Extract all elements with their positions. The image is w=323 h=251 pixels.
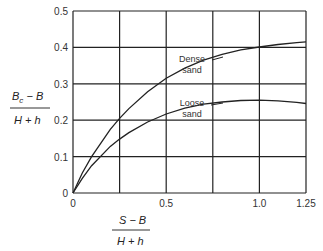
y-tick-label: 0 [62,188,68,199]
x-axis-ticks: 00.51.01.25 [70,198,316,209]
svg-text:H + h: H + h [14,114,41,126]
x-tick-label: 0.5 [159,198,173,209]
y-tick-label: 0.1 [54,152,68,163]
series-label: Dense [179,54,205,64]
x-tick-label: 1.25 [296,198,316,209]
chart: 00.10.20.30.40.5 00.51.01.25 DensesandLo… [0,0,323,251]
series-label: sand [182,109,202,119]
y-tick-label: 0.5 [54,6,68,17]
x-tick-label: 0 [70,198,76,209]
series-label: Loose [180,98,205,108]
series-label: sand [182,65,202,75]
y-tick-label: 0.4 [54,42,68,53]
y-tick-label: 0.2 [54,115,68,126]
x-tick-label: 1.0 [252,198,266,209]
series-annotations: DensesandLoosesand [179,54,223,119]
y-axis-ticks: 00.10.20.30.40.5 [54,6,68,199]
svg-text:H + h: H + h [117,235,144,247]
y-tick-label: 0.3 [54,79,68,90]
x-axis-label: S − B H + h [112,214,150,247]
svg-text:Bc − B: Bc − B [12,90,43,105]
y-axis-label: Bc − B H + h [10,90,50,126]
svg-text:S − B: S − B [119,214,146,226]
